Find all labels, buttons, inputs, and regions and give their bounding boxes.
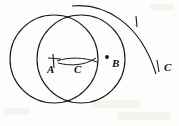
geometry-figure: A C B C xyxy=(0,0,179,126)
figure-canvas xyxy=(0,0,179,126)
point-a-cross-horizontal xyxy=(48,58,61,59)
label-point-c-right: C xyxy=(164,62,171,73)
small-arc-upper xyxy=(57,58,97,62)
label-point-c-middle: C xyxy=(74,64,81,75)
label-point-a: A xyxy=(47,64,54,75)
tick-mark-point-c-right xyxy=(157,60,159,72)
tick-mark-upper-arc xyxy=(136,16,137,27)
point-b-dot xyxy=(105,55,109,59)
label-point-b: B xyxy=(112,58,119,69)
